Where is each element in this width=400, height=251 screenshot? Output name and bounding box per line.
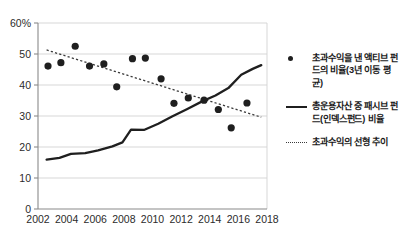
x-axis-tick-labels: 200220042006200820102012201420162018 bbox=[26, 213, 279, 225]
svg-text:2010: 2010 bbox=[141, 213, 165, 225]
svg-text:40: 40 bbox=[19, 79, 31, 91]
svg-text:2018: 2018 bbox=[255, 213, 279, 225]
svg-text:10: 10 bbox=[19, 172, 31, 184]
y-axis-tick-labels: 0102030405060% bbox=[10, 17, 31, 215]
svg-text:2002: 2002 bbox=[26, 213, 50, 225]
legend-solid-line-marker-icon bbox=[286, 100, 308, 114]
y-axis-ticks bbox=[34, 23, 38, 209]
legend-dot-marker-icon bbox=[286, 52, 308, 66]
svg-text:2006: 2006 bbox=[84, 213, 108, 225]
svg-text:30: 30 bbox=[19, 110, 31, 122]
svg-text:2016: 2016 bbox=[227, 213, 251, 225]
passive-share-line-series bbox=[47, 65, 262, 160]
legend-label-passive-share: 총운용자산 중 패시브 펀드(인덱스펀드) 비율 bbox=[312, 100, 400, 125]
svg-text:2014: 2014 bbox=[198, 213, 222, 225]
chart-figure: 0102030405060% 2002200420062008201020122… bbox=[0, 0, 400, 251]
legend-label-trend: 초과수익의 선형 추이 bbox=[312, 136, 388, 148]
svg-text:2012: 2012 bbox=[169, 213, 193, 225]
gridlines bbox=[38, 23, 267, 209]
legend-item-active-funds: 초과수익을 낸 액티브 펀드의 비율(3년 이동 평균) bbox=[286, 52, 400, 89]
chart-legend: 초과수익을 낸 액티브 펀드의 비율(3년 이동 평균) 총운용자산 중 패시브… bbox=[286, 52, 400, 161]
svg-text:2008: 2008 bbox=[112, 213, 136, 225]
svg-text:60%: 60% bbox=[10, 17, 31, 29]
svg-text:2004: 2004 bbox=[55, 213, 79, 225]
legend-item-trend: 초과수익의 선형 추이 bbox=[286, 136, 400, 150]
legend-dashed-line-marker-icon bbox=[286, 136, 308, 150]
trend-line-series bbox=[47, 50, 262, 117]
legend-label-active-funds: 초과수익을 낸 액티브 펀드의 비율(3년 이동 평균) bbox=[312, 52, 400, 89]
legend-item-passive-share: 총운용자산 중 패시브 펀드(인덱스펀드) 비율 bbox=[286, 100, 400, 125]
svg-text:20: 20 bbox=[19, 141, 31, 153]
svg-text:50: 50 bbox=[19, 48, 31, 60]
active-fund-scatter-series bbox=[44, 43, 250, 132]
